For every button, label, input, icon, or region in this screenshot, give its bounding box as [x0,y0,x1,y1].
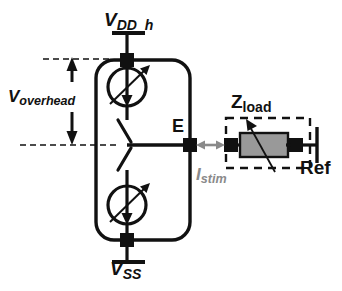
label-supply-vss: VSS [110,259,141,278]
label-overhead-base: V [8,87,19,106]
variable-current-source-bottom [108,183,150,225]
label-supply-vdd-base: V [104,9,117,30]
label-stim-current: Istim [196,166,227,183]
schematic-canvas [0,0,342,291]
load-impedance-block [238,119,291,172]
label-zload-base: Z [231,91,243,112]
label-load-impedance: Zload [231,92,272,111]
label-supply-vdd: VDD_h [104,10,153,29]
label-overhead-voltage: Voverhead [8,88,75,105]
label-supply-vss-base: V [110,258,123,279]
circuit-diagram: VDD_h VSS Voverhead E Zload Ref Istim [0,0,342,291]
label-reference-electrode: Ref [300,158,331,177]
label-istim-sub: stim [201,172,227,186]
pad-vss [120,233,134,247]
pad-electrode [183,138,197,152]
label-electrode-node: E [172,117,184,135]
pad-load-right [289,138,303,152]
label-supply-vdd-sub: DD_h [117,17,154,33]
label-zload-sub: load [243,99,272,115]
label-overhead-sub: overhead [19,94,75,108]
label-supply-vss-sub: SS [123,266,142,282]
variable-current-source-top [108,65,150,107]
istim-arrow [196,141,225,150]
pad-vdd [120,53,134,67]
